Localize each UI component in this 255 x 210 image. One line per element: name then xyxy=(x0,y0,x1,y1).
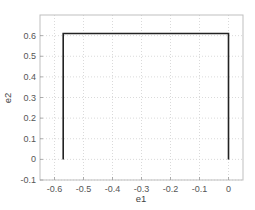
chart: -0.6-0.5-0.4-0.3-0.2-0.10 -0.100.10.20.3… xyxy=(0,0,255,210)
x-tick-label: -0.2 xyxy=(163,184,179,194)
grid-lines xyxy=(40,15,243,180)
x-tick-label: -0.1 xyxy=(192,184,208,194)
y-axis-label: e2 xyxy=(2,93,13,104)
x-tick-label: -0.4 xyxy=(105,184,121,194)
series-line xyxy=(63,34,228,160)
y-tick-label: 0.6 xyxy=(23,31,36,41)
x-tick-label: 0 xyxy=(226,184,231,194)
x-tick-label: -0.6 xyxy=(47,184,63,194)
x-axis-label: e1 xyxy=(136,193,147,204)
y-tick-label: 0.2 xyxy=(23,113,36,123)
x-tick-label: -0.5 xyxy=(76,184,92,194)
y-tick-label: 0.3 xyxy=(23,93,36,103)
data-series xyxy=(63,34,228,160)
y-tick-label: 0.5 xyxy=(23,51,36,61)
y-tick-label: -0.1 xyxy=(20,175,36,185)
y-tick-label: 0 xyxy=(31,154,36,164)
y-tick-label: 0.4 xyxy=(23,72,36,82)
y-tick-label: 0.1 xyxy=(23,134,36,144)
